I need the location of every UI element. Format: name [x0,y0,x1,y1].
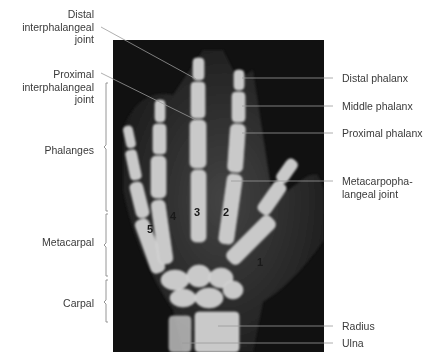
hand-bones-illustration [113,40,324,352]
label-proximal-phalanx: Proximal phalanx [342,127,423,140]
digit-number-4: 4 [170,210,176,222]
digit-number-3: 3 [194,206,200,218]
label-line: joint [22,33,94,46]
label-line: joint [22,93,94,106]
label-middle-phalanx: Middle phalanx [342,100,413,113]
label-line: langeal joint [342,188,413,201]
digit-number-2: 2 [223,206,229,218]
label-line: Distal [22,8,94,21]
digit-number-1: 1 [257,256,263,268]
label-distal-interphalangeal-joint: Distal interphalangeal joint [22,8,94,46]
label-line: interphalangeal [22,21,94,34]
label-proximal-interphalangeal-joint: Proximal interphalangeal joint [22,68,94,106]
label-radius: Radius [342,320,375,333]
label-metacarpophalangeal-joint: Metacarpopha- langeal joint [342,175,413,200]
label-distal-phalanx: Distal phalanx [342,72,408,85]
label-ulna: Ulna [342,337,364,350]
label-phalanges: Phalanges [44,144,94,157]
digit-number-5: 5 [147,223,153,235]
hand-xray-image [113,40,324,352]
label-line: interphalangeal [22,81,94,94]
label-line: Proximal [22,68,94,81]
label-carpal: Carpal [63,297,94,310]
label-line: Metacarpopha- [342,175,413,188]
label-metacarpal: Metacarpal [42,236,94,249]
